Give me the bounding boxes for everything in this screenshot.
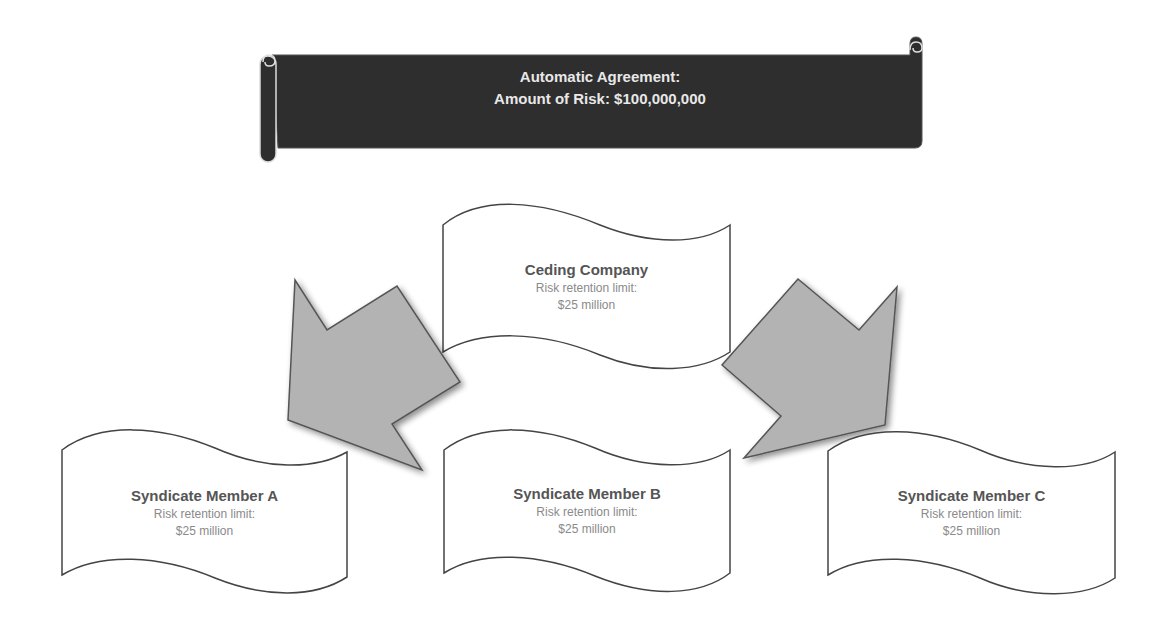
member-a-retention-value: $25 million [62, 523, 347, 540]
banner-title: Automatic Agreement: [300, 66, 900, 88]
member-c-retention-label: Risk retention limit: [828, 506, 1115, 523]
member-a-title: Syndicate Member A [62, 486, 347, 506]
syndicate-member-c-label: Syndicate Member C Risk retention limit:… [828, 486, 1115, 540]
left-bent-arrow [288, 280, 460, 470]
member-c-title: Syndicate Member C [828, 486, 1115, 506]
syndicate-member-a-label: Syndicate Member A Risk retention limit:… [62, 486, 347, 540]
ceding-retention-value: $25 million [443, 297, 730, 314]
ceding-company-label: Ceding Company Risk retention limit: $25… [443, 260, 730, 314]
member-b-retention-value: $25 million [444, 521, 730, 538]
banner-label: Automatic Agreement: Amount of Risk: $10… [300, 66, 900, 110]
member-a-retention-label: Risk retention limit: [62, 506, 347, 523]
right-bent-arrow [722, 279, 897, 458]
member-b-retention-label: Risk retention limit: [444, 504, 730, 521]
syndicate-member-b-label: Syndicate Member B Risk retention limit:… [444, 484, 730, 538]
banner-amount: Amount of Risk: $100,000,000 [300, 88, 900, 110]
member-b-title: Syndicate Member B [444, 484, 730, 504]
ceding-retention-label: Risk retention limit: [443, 280, 730, 297]
member-c-retention-value: $25 million [828, 523, 1115, 540]
ceding-company-title: Ceding Company [443, 260, 730, 280]
